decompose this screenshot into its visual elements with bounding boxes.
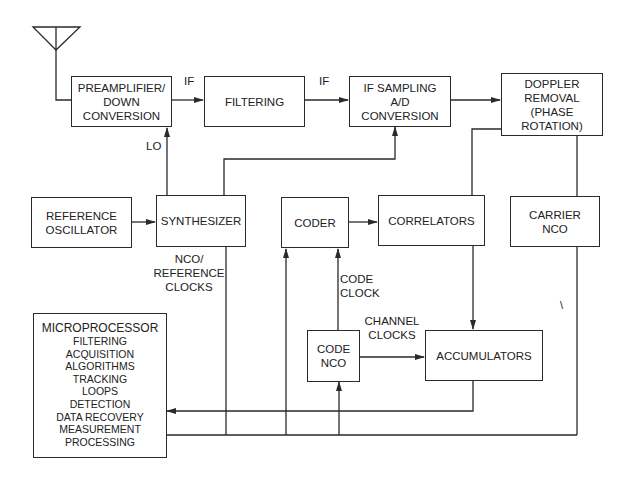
block-label: NCO bbox=[321, 356, 347, 370]
block-label: CODE bbox=[317, 342, 350, 356]
filtering-block: FILTERING bbox=[204, 76, 305, 127]
code-nco-block: CODE NCO bbox=[307, 330, 360, 382]
microprocessor-function: DETECTION bbox=[70, 398, 131, 411]
block-label: SYNTHESIZER bbox=[161, 214, 242, 228]
microprocessor-function: ALGORITHMS bbox=[65, 360, 134, 373]
block-label: CONVERSION bbox=[83, 109, 160, 123]
microprocessor-title: MICROPROCESSOR bbox=[42, 321, 159, 335]
if-sampling-ad-conversion-block: IF SAMPLING A/D CONVERSION bbox=[349, 76, 451, 127]
block-label: CODER bbox=[294, 216, 336, 230]
block-label: OSCILLATOR bbox=[46, 223, 118, 237]
block-label: CORRELATORS bbox=[388, 214, 474, 228]
block-label: ACCUMULATORS bbox=[436, 349, 531, 363]
if-label-2: IF bbox=[319, 74, 329, 88]
correlators-block: CORRELATORS bbox=[378, 195, 485, 246]
accumulators-block: ACCUMULATORS bbox=[425, 330, 543, 381]
synthesizer-block: SYNTHESIZER bbox=[156, 195, 246, 247]
block-label: CARRIER bbox=[529, 208, 581, 222]
block-label: PREAMPLIFIER/ bbox=[78, 81, 166, 95]
channel-clocks-label: CHANNEL CLOCKS bbox=[360, 314, 424, 342]
microprocessor-block: MICROPROCESSOR FILTERING ACQUISITION ALG… bbox=[33, 313, 167, 458]
block-label: REFERENCE bbox=[46, 209, 117, 223]
microprocessor-function: FILTERING bbox=[73, 335, 127, 348]
if-label-1: IF bbox=[184, 74, 194, 88]
reference-oscillator-block: REFERENCE OSCILLATOR bbox=[31, 197, 132, 248]
microprocessor-function: PROCESSING bbox=[65, 436, 135, 449]
block-label: FILTERING bbox=[225, 95, 284, 109]
block-label: IF SAMPLING bbox=[364, 81, 437, 95]
lo-label: LO bbox=[146, 139, 161, 153]
code-clock-label: CODE CLOCK bbox=[340, 272, 388, 300]
block-label: CONVERSION bbox=[361, 109, 438, 123]
microprocessor-function: TRACKING bbox=[73, 373, 127, 386]
nco-reference-clocks-label: NCO/ REFERENCE CLOCKS bbox=[149, 252, 229, 294]
microprocessor-function: DATA RECOVERY bbox=[56, 411, 144, 424]
block-label: ROTATION) bbox=[521, 119, 583, 133]
block-label: NCO bbox=[542, 222, 568, 236]
microprocessor-function: LOOPS bbox=[82, 385, 118, 398]
preamplifier-down-conversion-block: PREAMPLIFIER/ DOWN CONVERSION bbox=[71, 76, 172, 127]
antenna-icon bbox=[33, 27, 80, 50]
block-label: (PHASE bbox=[531, 105, 574, 119]
block-label: DOWN bbox=[103, 95, 139, 109]
doppler-removal-block: DOPPLER REMOVAL (PHASE ROTATION) bbox=[501, 73, 603, 136]
microprocessor-function: MEASUREMENT bbox=[59, 423, 141, 436]
block-label: A/D bbox=[390, 95, 409, 109]
coder-block: CODER bbox=[281, 197, 349, 248]
block-label: DOPPLER bbox=[525, 77, 580, 91]
microprocessor-function: ACQUISITION bbox=[66, 348, 134, 361]
block-label: REMOVAL bbox=[524, 91, 579, 105]
stray-mark: \ bbox=[560, 298, 563, 312]
carrier-nco-block: CARRIER NCO bbox=[510, 196, 600, 247]
